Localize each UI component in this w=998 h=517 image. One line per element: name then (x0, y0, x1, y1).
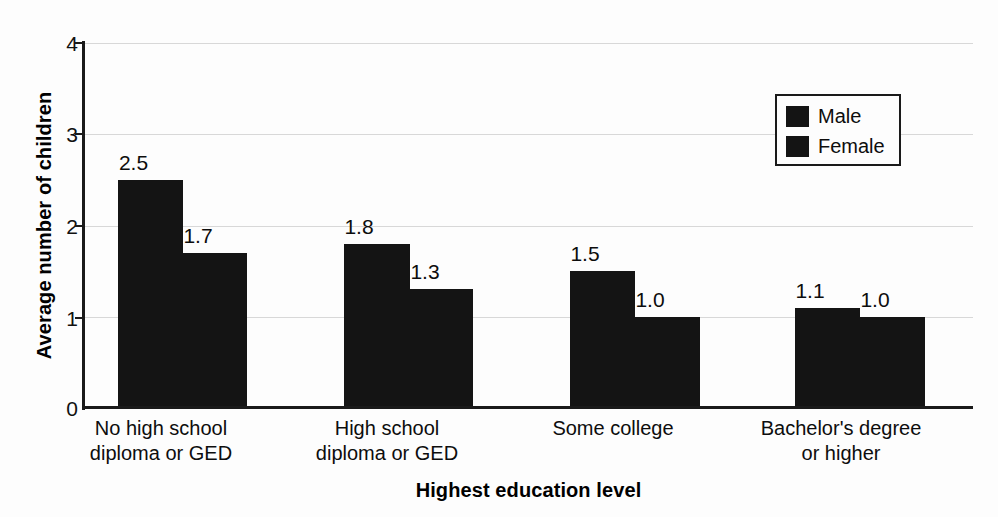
value-label-group3-female: 1.0 (604, 289, 696, 310)
value-label-group2-male: 1.8 (313, 216, 405, 237)
y-tick-mark-3 (75, 133, 82, 135)
bar-chart-figure: Average number of children 4 3 2 1 0 2.5… (0, 0, 998, 517)
legend-swatch-male (786, 106, 809, 127)
legend-swatch-female (786, 136, 809, 157)
legend-item-male: Male (786, 101, 899, 131)
y-tick-mark-4 (75, 42, 82, 44)
legend-label-female: Female (818, 136, 885, 156)
x-axis-line (82, 406, 973, 409)
bar-group1-female (183, 253, 247, 408)
x-axis-title: Highest education level (84, 479, 973, 502)
value-label-group3-male: 1.5 (539, 243, 631, 264)
x-category-label-1: No high school diploma or GED (38, 416, 284, 466)
gridline-4 (84, 43, 973, 44)
legend-label-male: Male (818, 106, 861, 126)
bar-group3-female (635, 317, 700, 408)
legend: Male Female (775, 94, 901, 166)
x-category-label-2: High school diploma or GED (267, 416, 507, 466)
x-category-label-4: Bachelor's degree or higher (718, 416, 964, 466)
value-label-group2-female: 1.3 (379, 261, 471, 282)
value-label-group1-male: 2.5 (88, 152, 179, 173)
bar-group1-male (118, 180, 183, 408)
x-category-label-3: Some college (493, 416, 733, 441)
bar-group2-female (410, 289, 473, 408)
bar-group4-male (795, 308, 860, 408)
value-label-group1-female: 1.7 (152, 225, 244, 246)
y-axis-line (82, 41, 85, 410)
value-label-group4-female: 1.0 (829, 289, 921, 310)
legend-item-female: Female (786, 131, 899, 161)
y-tick-mark-2 (75, 225, 82, 227)
y-tick-mark-1 (75, 317, 82, 319)
bar-group4-female (860, 317, 925, 408)
